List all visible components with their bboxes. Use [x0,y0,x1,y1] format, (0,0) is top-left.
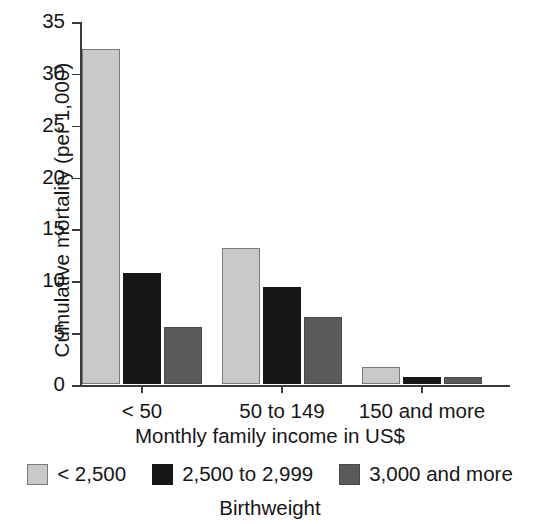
x-axis-line [80,385,510,387]
y-axis-tick: 0 [20,385,80,386]
chart-legend: < 2,5002,500 to 2,9993,000 and more [0,462,540,486]
x-axis-tick-mark [141,385,143,393]
x-axis-tick-label: 150 and more [359,399,486,423]
y-axis-tick-label: 20 [42,165,65,189]
y-axis-tick-mark [72,22,80,24]
x-axis-title: Monthly family income in US$ [0,424,540,448]
x-axis-tick-label: 50 to 149 [239,399,325,423]
y-axis-tick: 15 [20,229,80,230]
y-axis-tick-label: 35 [42,9,65,33]
bar-chart-figure: Cumulative mortality (per 1,000) 0510152… [0,0,540,524]
bar [263,287,301,384]
y-axis-tick: 20 [20,178,80,179]
y-axis-tick-label: 15 [42,216,65,240]
y-axis-tick-mark [72,281,80,283]
legend-swatch-icon [339,464,360,485]
legend-item: 2,500 to 2,999 [152,462,313,486]
bar [304,317,342,384]
bar [362,367,400,384]
bar [164,327,202,384]
legend-item: 3,000 and more [339,462,513,486]
x-axis-tick-mark [281,385,283,393]
legend-item-label: 2,500 to 2,999 [182,462,313,486]
y-axis-tick-mark [72,126,80,128]
legend-title: Birthweight [0,496,540,520]
y-axis-tick-mark [72,74,80,76]
y-axis-tick-mark [72,229,80,231]
bar [82,49,120,384]
x-axis-tick-label: < 50 [122,399,162,423]
legend-item: < 2,500 [27,462,126,486]
plot-area: 05101520253035 < 5050 to 149150 and more [80,22,510,385]
legend-item-label: 3,000 and more [369,462,513,486]
y-axis-tick-label: 0 [54,372,65,396]
legend-swatch-icon [27,464,48,485]
legend-swatch-icon [152,464,173,485]
y-axis-tick-mark [72,385,80,387]
bar [123,273,161,384]
y-axis-tick-label: 25 [42,113,65,137]
y-axis-tick-mark [72,333,80,335]
y-axis-tick: 35 [20,22,80,23]
y-axis-tick: 10 [20,281,80,282]
y-axis-tick: 30 [20,74,80,75]
bar [403,377,441,384]
y-axis-tick: 5 [20,333,80,334]
y-axis-tick-label: 10 [42,268,65,292]
legend-item-label: < 2,500 [57,462,126,486]
y-axis-tick-label: 5 [54,320,65,344]
x-axis-tick-mark [421,385,423,393]
y-axis-tick-label: 30 [42,61,65,85]
bar [444,377,482,384]
bar [222,248,260,384]
y-axis-tick: 25 [20,126,80,127]
y-axis-tick-mark [72,178,80,180]
